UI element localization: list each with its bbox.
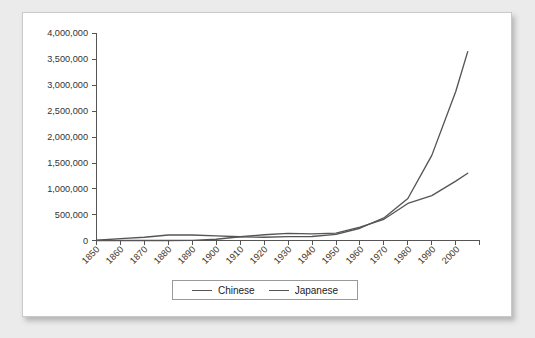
- y-axis-tick-label: 4,000,000: [47, 28, 88, 38]
- y-axis-tick-label: 2,500,000: [47, 106, 88, 116]
- x-axis-tick-label: 1900: [200, 244, 222, 266]
- x-axis-tick-label: 1980: [392, 244, 414, 266]
- series-line-japanese: [97, 173, 468, 240]
- y-axis-tick-label: 500,000: [55, 210, 88, 220]
- chart-legend: Chinese Japanese: [172, 280, 358, 300]
- x-axis-tick-labels: 1850 1860 1870 1880 1890 1900 1910 1920 …: [80, 244, 462, 266]
- x-axis-ticks: [97, 241, 480, 246]
- legend-entry-chinese: Chinese: [192, 285, 255, 296]
- y-axis-tick-label: 2,000,000: [47, 132, 88, 142]
- y-axis-tick-label: 3,500,000: [47, 54, 88, 64]
- y-axis-tick-label: 0: [83, 236, 88, 246]
- line-chart-plot: 4,000,000 3,500,000 3,000,000 2,500,000 …: [23, 13, 511, 316]
- page-root: 4,000,000 3,500,000 3,000,000 2,500,000 …: [0, 0, 535, 338]
- x-axis-tick-label: 1890: [176, 244, 198, 266]
- x-axis-tick-label: 2000: [440, 244, 462, 266]
- y-axis-tick-label: 1,000,000: [47, 184, 88, 194]
- y-axis-tick-label: 3,000,000: [47, 80, 88, 90]
- x-axis-tick-label: 1930: [272, 244, 294, 266]
- x-axis-tick-label: 1920: [248, 244, 270, 266]
- series-line-chinese: [97, 52, 468, 241]
- x-axis-tick-label: 1940: [296, 244, 318, 266]
- legend-label: Japanese: [295, 285, 338, 296]
- x-axis-tick-label: 1850: [80, 244, 102, 266]
- x-axis-tick-label: 1990: [416, 244, 438, 266]
- x-axis-tick-label: 1880: [152, 244, 174, 266]
- y-axis-ticks: [92, 34, 97, 241]
- x-axis-tick-label: 1870: [128, 244, 150, 266]
- x-axis-tick-label: 1860: [104, 244, 126, 266]
- legend-entry-japanese: Japanese: [269, 285, 338, 296]
- chart-card: 4,000,000 3,500,000 3,000,000 2,500,000 …: [22, 12, 512, 317]
- x-axis-tick-label: 1950: [320, 244, 342, 266]
- y-axis-tick-labels: 4,000,000 3,500,000 3,000,000 2,500,000 …: [47, 28, 88, 246]
- x-axis-tick-label: 1910: [224, 244, 246, 266]
- y-axis-tick-label: 1,500,000: [47, 158, 88, 168]
- x-axis-tick-label: 1960: [344, 244, 366, 266]
- legend-line-swatch-icon: [192, 290, 212, 291]
- x-axis-tick-label: 1970: [368, 244, 390, 266]
- legend-line-swatch-icon: [269, 290, 289, 291]
- legend-label: Chinese: [218, 285, 255, 296]
